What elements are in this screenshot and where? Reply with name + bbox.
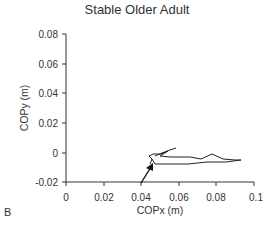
x-tick-label: 0.08 [206,192,226,203]
y-tick-label: 0 [52,148,58,159]
x-axis-label: COPx (m) [137,204,184,216]
y-tick-label: -0.02 [35,177,58,188]
y-tick-label: 0.08 [39,29,59,40]
x-ticks: 0 0.02 0.04 0.06 0.08 0.1 [63,182,263,203]
panel-label: B [4,206,11,218]
y-ticks: 0.08 0.06 0.04 0.02 0 -0.02 [35,29,66,188]
y-tick-label: 0.06 [39,59,59,70]
x-tick-label: 0.04 [131,192,151,203]
x-tick-label: 0.02 [94,192,114,203]
y-tick-label: 0.04 [39,88,59,99]
arrow-annotation [141,163,153,183]
y-tick-label: 0.02 [39,118,59,129]
x-tick-label: 0 [63,192,69,203]
x-tick-label: 0.06 [169,192,189,203]
chart-plot: 0.08 0.06 0.04 0.02 0 -0.02 0 0.02 0.04 … [0,0,274,229]
x-tick-label: 0.1 [249,192,263,203]
y-axis-label: COPy (m) [18,85,30,132]
